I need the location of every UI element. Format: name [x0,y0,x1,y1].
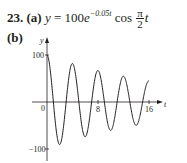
y-axis-label: y [39,36,44,45]
x-axis-label: t [164,100,167,109]
x-tick-label-0: 0 [41,104,45,113]
x-tick-label-8: 8 [96,105,100,114]
y-tick-label-neg100: −100 [29,145,46,154]
x-tick-label-16: 16 [145,105,153,114]
damped-cosine-curve [47,55,149,145]
y-tick-label-100: 100 [32,51,44,60]
x-axis-arrow-icon [157,100,163,104]
damped-oscillation-chart: y t 100 −100 0 8 16 [0,0,187,163]
y-axis-arrow-icon [45,37,49,43]
